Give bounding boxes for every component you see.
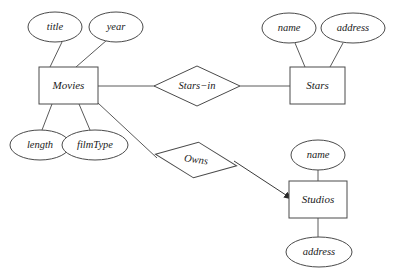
- attribute-label: name: [307, 149, 330, 160]
- attribute-movies-year[interactable]: year: [89, 12, 143, 42]
- edge-stars-address: [330, 43, 343, 67]
- entity-stars[interactable]: Stars: [290, 67, 345, 104]
- edge-owns-studios: [234, 161, 292, 199]
- edge-movies-length: [42, 104, 52, 130]
- relationship-stars-in[interactable]: Stars−in: [154, 66, 240, 106]
- attribute-label: name: [278, 22, 301, 33]
- entity-label: Movies: [52, 79, 85, 91]
- attribute-label: length: [27, 139, 53, 150]
- attribute-stars-name[interactable]: name: [262, 13, 316, 43]
- attribute-movies-filmtype[interactable]: filmType: [62, 130, 128, 160]
- edge-movies-year: [76, 40, 107, 67]
- attribute-movies-title[interactable]: title: [28, 12, 82, 42]
- er-diagram-canvas: Stars−inOwns MoviesStarsStudios titleyea…: [0, 0, 393, 275]
- attribute-label: year: [106, 21, 127, 32]
- entity-label: Studios: [302, 193, 334, 205]
- attribute-movies-length[interactable]: length: [10, 130, 70, 160]
- attribute-studios-address[interactable]: address: [286, 237, 352, 267]
- attribute-studios-name[interactable]: name: [291, 140, 345, 170]
- entity-label: Stars: [306, 79, 329, 91]
- attributes-layer: titleyearlengthfilmTypenameaddressnamead…: [10, 12, 385, 267]
- edge-movies-filmtype: [79, 104, 90, 130]
- relationship-label: Stars−in: [179, 80, 216, 91]
- entity-studios[interactable]: Studios: [289, 181, 347, 218]
- edge-stars-name: [295, 43, 305, 67]
- attribute-stars-address[interactable]: address: [321, 13, 385, 43]
- edge-movies-title: [50, 42, 62, 67]
- attribute-label: title: [47, 21, 64, 32]
- attribute-label: filmType: [77, 139, 113, 150]
- attribute-label: address: [303, 246, 335, 257]
- attribute-label: address: [337, 22, 369, 33]
- entity-movies[interactable]: Movies: [39, 67, 98, 104]
- relationship-owns[interactable]: Owns: [153, 136, 239, 183]
- relationships-layer: Stars−inOwns: [153, 66, 240, 184]
